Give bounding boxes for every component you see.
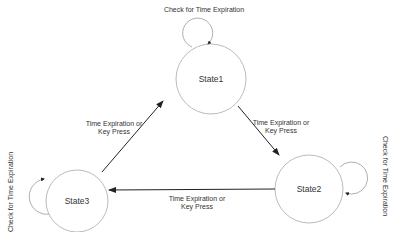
state-diagram: State1 State2 State3 Time Expiration or … xyxy=(0,0,394,232)
transition-state2-to-state3 xyxy=(109,189,275,190)
state2-node[interactable]: State2 xyxy=(275,155,343,223)
transition-state3-to-state1 xyxy=(102,101,163,172)
transition-2-3-label-line1: Time Expiration or xyxy=(169,195,226,203)
state1-node[interactable]: State1 xyxy=(176,44,246,114)
state3-node[interactable]: State3 xyxy=(46,170,108,232)
state2-loop-label: Check for Time Expiration xyxy=(381,136,389,216)
transition-3-1-label-line1: Time Expiration or xyxy=(86,120,143,128)
state3-label: State3 xyxy=(65,196,90,206)
state3-loop-label: Check for Time Expiration xyxy=(7,152,15,232)
state1-label: State1 xyxy=(199,74,224,84)
transition-2-3-label-line2: Key Press xyxy=(181,203,213,211)
state2-self-loop xyxy=(340,162,368,194)
transition-3-1-label-line2: Key Press xyxy=(98,128,130,136)
transition-1-2-label-line2: Key Press xyxy=(265,127,297,135)
state1-loop-label: Check for Time Expiration xyxy=(164,6,244,14)
state1-self-loop xyxy=(183,18,213,47)
state2-label: State2 xyxy=(297,184,322,194)
transition-1-2-label-line1: Time Expiration or xyxy=(253,119,310,127)
